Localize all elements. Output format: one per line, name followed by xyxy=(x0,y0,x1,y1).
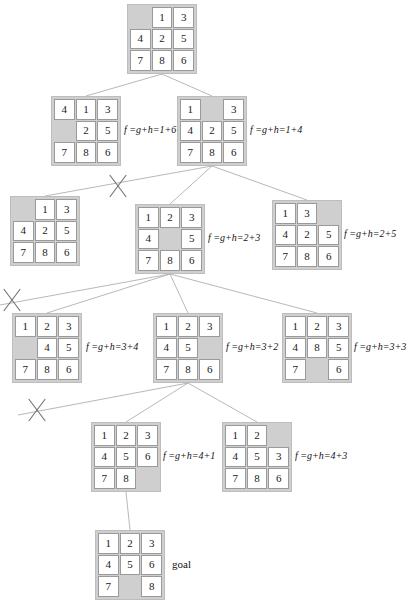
puzzle-tile: 4 xyxy=(54,99,75,120)
tree-edge xyxy=(170,274,188,313)
puzzle-tile: 4 xyxy=(94,447,115,468)
puzzle-state-node: 13425786 xyxy=(177,96,247,166)
f-cost-label: f =g+h=1+4 xyxy=(250,124,302,135)
puzzle-tile: 4 xyxy=(138,229,159,250)
puzzle-tile: 2 xyxy=(178,316,199,337)
puzzle-tile: 2 xyxy=(247,425,268,446)
puzzle-tile: 3 xyxy=(181,207,202,228)
puzzle-tile: 6 xyxy=(56,242,77,263)
f-cost-label: f =g+h=2+3 xyxy=(208,232,260,243)
puzzle-tile: 4 xyxy=(13,221,34,242)
puzzle-tile: 8 xyxy=(297,246,318,267)
puzzle-tile: 6 xyxy=(141,555,162,576)
puzzle-tile: 1 xyxy=(285,316,306,337)
puzzle-tile: 5 xyxy=(181,229,202,250)
puzzle-tile: 4 xyxy=(156,338,177,359)
puzzle-tile: 5 xyxy=(116,447,137,468)
puzzle-state-node: 41325786 xyxy=(51,96,121,166)
puzzle-tile: 1 xyxy=(138,207,159,228)
puzzle-tile: 8 xyxy=(160,250,181,271)
puzzle-tile: 2 xyxy=(307,316,328,337)
puzzle-tile: 2 xyxy=(35,221,56,242)
puzzle-tile: 8 xyxy=(116,468,137,489)
puzzle-tile-blank xyxy=(318,203,339,224)
puzzle-tile: 2 xyxy=(297,225,318,246)
puzzle-tile: 3 xyxy=(56,199,77,220)
puzzle-tile: 6 xyxy=(97,142,118,163)
tree-edge xyxy=(212,166,307,200)
puzzle-tile-blank xyxy=(120,576,141,597)
puzzle-tile: 7 xyxy=(98,576,119,597)
puzzle-tile: 5 xyxy=(223,121,244,142)
puzzle-tile: 6 xyxy=(199,359,220,380)
puzzle-tile: 6 xyxy=(137,447,158,468)
puzzle-tile: 3 xyxy=(199,316,220,337)
puzzle-tile: 3 xyxy=(97,99,118,120)
f-cost-label: f =g+h=3+2 xyxy=(226,341,278,352)
puzzle-tile: 7 xyxy=(156,359,177,380)
puzzle-tile: 1 xyxy=(35,199,56,220)
puzzle-tile: 5 xyxy=(178,338,199,359)
puzzle-tile-blank xyxy=(307,359,328,380)
puzzle-tile: 8 xyxy=(178,359,199,380)
puzzle-tile: 6 xyxy=(318,246,339,267)
puzzle-state-node: 12345786 xyxy=(135,204,205,274)
puzzle-tile: 1 xyxy=(180,99,201,120)
puzzle-tile-blank xyxy=(199,338,220,359)
puzzle-tile: 7 xyxy=(180,142,201,163)
tree-edge xyxy=(162,74,212,96)
puzzle-tile: 7 xyxy=(275,246,296,267)
puzzle-tile: 7 xyxy=(285,359,306,380)
puzzle-tile: 6 xyxy=(328,359,349,380)
puzzle-tile: 2 xyxy=(160,207,181,228)
puzzle-tile: 2 xyxy=(76,121,97,142)
puzzle-tile: 4 xyxy=(275,225,296,246)
pruned-branch-x-icon xyxy=(29,399,46,421)
pruned-branch-x-icon xyxy=(4,289,21,311)
tree-edge xyxy=(0,274,170,305)
f-cost-label: f =g+h=2+5 xyxy=(344,228,396,239)
puzzle-tile: 5 xyxy=(247,447,268,468)
puzzle-tile: 5 xyxy=(328,338,349,359)
puzzle-state-node: 12345678 xyxy=(91,422,161,492)
puzzle-state-goal: 12345678 xyxy=(95,530,165,600)
puzzle-tile-blank xyxy=(54,121,75,142)
tree-edge xyxy=(188,383,257,422)
puzzle-tile: 2 xyxy=(37,316,58,337)
puzzle-tile: 1 xyxy=(152,7,173,28)
puzzle-state-node: 12345786 xyxy=(153,313,223,383)
puzzle-tile: 2 xyxy=(202,121,223,142)
puzzle-tile: 1 xyxy=(98,533,119,554)
puzzle-tile: 5 xyxy=(120,555,141,576)
tree-edge xyxy=(126,383,188,422)
puzzle-tile: 5 xyxy=(58,338,79,359)
tree-edge xyxy=(45,166,212,196)
puzzle-tile-blank xyxy=(13,199,34,220)
puzzle-tile: 1 xyxy=(225,425,246,446)
puzzle-tile: 7 xyxy=(94,468,115,489)
puzzle-tile-blank xyxy=(160,229,181,250)
puzzle-tile: 5 xyxy=(318,225,339,246)
puzzle-state-node: 13425786 xyxy=(10,196,80,266)
puzzle-state-node: 12345786 xyxy=(12,313,82,383)
tree-edge xyxy=(86,74,162,96)
f-cost-label: f =g+h=1+6 xyxy=(124,124,176,135)
puzzle-tile-blank xyxy=(202,99,223,120)
puzzle-tile: 3 xyxy=(297,203,318,224)
puzzle-tile: 5 xyxy=(56,221,77,242)
puzzle-tile: 3 xyxy=(328,316,349,337)
puzzle-tile: 7 xyxy=(54,142,75,163)
puzzle-tile: 3 xyxy=(173,7,194,28)
puzzle-tile: 3 xyxy=(137,425,158,446)
puzzle-tile: 1 xyxy=(76,99,97,120)
puzzle-tile: 8 xyxy=(152,50,173,71)
search-tree-diagram: 1342578641325786f =g+h=1+613425786f =g+h… xyxy=(0,0,407,609)
puzzle-tile: 1 xyxy=(94,425,115,446)
puzzle-tile: 8 xyxy=(202,142,223,163)
puzzle-tile: 8 xyxy=(35,242,56,263)
puzzle-tile: 1 xyxy=(275,203,296,224)
f-cost-label: f =g+h=4+1 xyxy=(163,450,215,461)
tree-edges xyxy=(0,0,407,609)
f-cost-label: f =g+h=4+3 xyxy=(295,450,347,461)
puzzle-tile-blank xyxy=(268,425,289,446)
